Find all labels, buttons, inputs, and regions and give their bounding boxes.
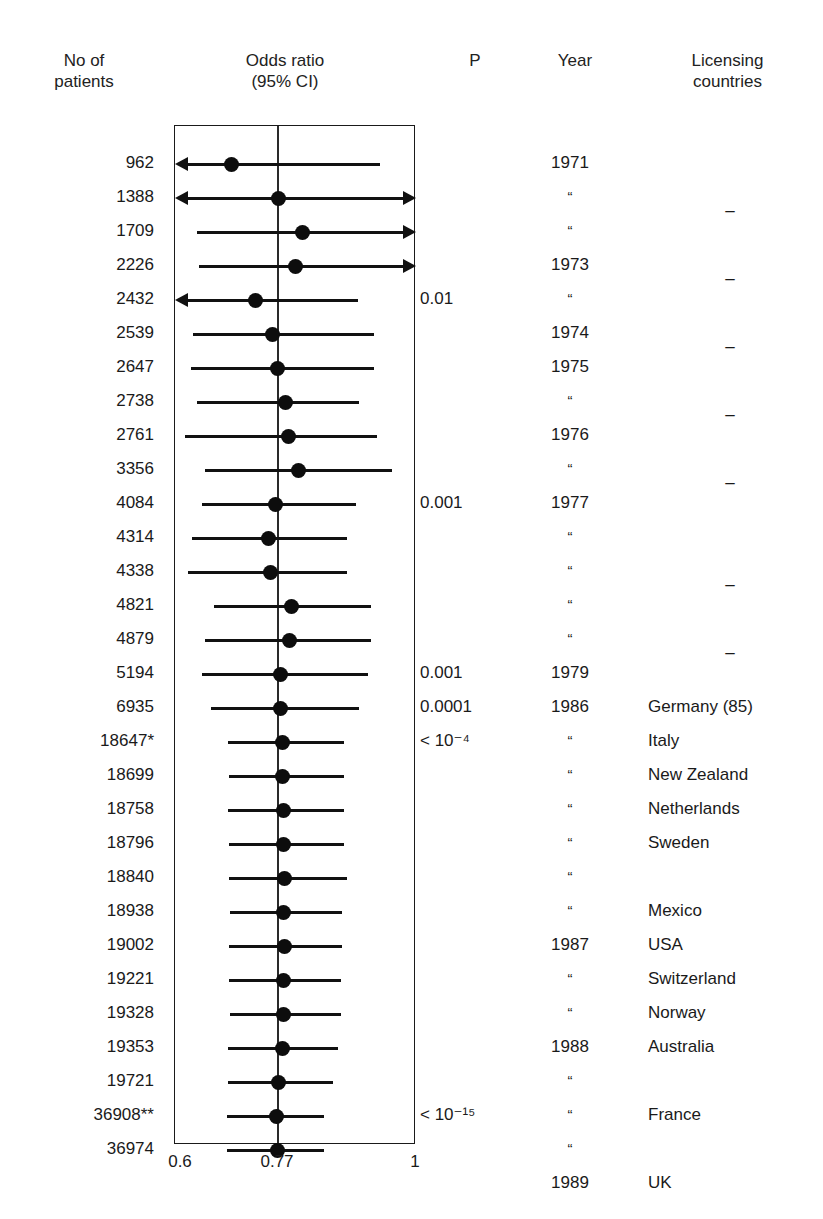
cell-patients: 19221	[14, 962, 154, 996]
cell-patients: 18796	[14, 826, 154, 860]
cell-year: “	[520, 1098, 620, 1132]
cell-patients: 4821	[14, 588, 154, 622]
cell-year: “	[520, 996, 620, 1030]
cell-patients: 19721	[14, 1064, 154, 1098]
cell-patients: 2647	[14, 350, 154, 384]
forest-plot-figure: No of patients Odds ratio (95% CI) P Yea…	[0, 0, 823, 1219]
cell-year: 1987	[520, 928, 620, 962]
cell-year: 1974	[520, 316, 620, 350]
cell-patients: 2226	[14, 248, 154, 282]
cell-year: 1971	[520, 146, 620, 180]
cell-year: “	[520, 792, 620, 826]
column-header-odds-ratio-line1: Odds ratio	[180, 50, 390, 71]
cell-year: 1988	[520, 1030, 620, 1064]
cell-year: “	[520, 622, 620, 656]
table-row: 22261973–	[0, 248, 823, 282]
column-header-odds-ratio-line2: (95% CI)	[180, 71, 390, 92]
cell-patients: 18938	[14, 894, 154, 928]
cell-patients: 18840	[14, 860, 154, 894]
cell-year: 1989	[520, 1166, 620, 1200]
axis-tick-label-max: 1	[392, 1150, 438, 1174]
table-row: 18647*< 10⁻⁴“Italy	[0, 724, 823, 758]
cell-year: “	[520, 894, 620, 928]
cell-licensing-country: Italy	[648, 724, 820, 758]
cell-licensing-country: UK	[648, 1166, 820, 1200]
cell-year: “	[520, 724, 620, 758]
table-row: 36908**< 10⁻¹⁵“France	[0, 1098, 823, 1132]
cell-year: “	[520, 554, 620, 588]
cell-patients: 18699	[14, 758, 154, 792]
column-header-patients-line2: patients	[14, 71, 154, 92]
table-row: 4821“	[0, 588, 823, 622]
column-header-patients: No of patients	[14, 50, 154, 92]
cell-year: “	[520, 520, 620, 554]
cell-licensing-country: Switzerland	[648, 962, 820, 996]
cell-patients: 19002	[14, 928, 154, 962]
cell-licensing-country: USA	[648, 928, 820, 962]
table-row: 4314“	[0, 520, 823, 554]
column-header-odds-ratio: Odds ratio (95% CI)	[180, 50, 390, 92]
axis-tick-label-min: 0.6	[150, 1150, 210, 1174]
column-header-licensing-countries: Licensing countries	[640, 50, 815, 92]
table-row: 9621971	[0, 146, 823, 180]
cell-patients: 2738	[14, 384, 154, 418]
cell-patients: 4084	[14, 486, 154, 520]
cell-patients: 36974	[14, 1132, 154, 1166]
cell-patients: 4879	[14, 622, 154, 656]
cell-patients: 4338	[14, 554, 154, 588]
column-header-licensing-line1: Licensing	[640, 50, 815, 71]
cell-licensing-country: France	[648, 1098, 820, 1132]
cell-patients: 6935	[14, 690, 154, 724]
table-row: 18938“Mexico	[0, 894, 823, 928]
table-row: 2738“–	[0, 384, 823, 418]
axis-tick-label-mid: 0.77	[246, 1150, 308, 1174]
cell-patients: 1388	[14, 180, 154, 214]
cell-patients: 2539	[14, 316, 154, 350]
cell-licensing-country: Australia	[648, 1030, 820, 1064]
cell-year: 1973	[520, 248, 620, 282]
cell-patients: 2432	[14, 282, 154, 316]
cell-year: “	[520, 962, 620, 996]
table-row: 18796“Sweden	[0, 826, 823, 860]
cell-licensing-country: Mexico	[648, 894, 820, 928]
cell-patients: 18758	[14, 792, 154, 826]
cell-licensing-country: Sweden	[648, 826, 820, 860]
cell-licensing-country: Norway	[648, 996, 820, 1030]
cell-year: “	[520, 826, 620, 860]
cell-patients: 962	[14, 146, 154, 180]
cell-patients: 36908**	[14, 1098, 154, 1132]
cell-year: 1976	[520, 418, 620, 452]
table-row: 27611976	[0, 418, 823, 452]
cell-year: “	[520, 180, 620, 214]
table-row: 1388“–	[0, 180, 823, 214]
cell-year: 1986	[520, 690, 620, 724]
column-header-year: Year	[520, 50, 630, 71]
column-header-licensing-line2: countries	[640, 71, 815, 92]
cell-patients: 18647*	[14, 724, 154, 758]
cell-patients: 5194	[14, 656, 154, 690]
column-header-p-value: P	[420, 50, 530, 71]
cell-year: “	[520, 1064, 620, 1098]
cell-patients: 2761	[14, 418, 154, 452]
cell-year: 1975	[520, 350, 620, 384]
cell-year: “	[520, 588, 620, 622]
cell-year: 1979	[520, 656, 620, 690]
table-row: 25391974–	[0, 316, 823, 350]
table-row: 4338“–	[0, 554, 823, 588]
table-row: 193531988Australia	[0, 1030, 823, 1064]
table-row: 1709“	[0, 214, 823, 248]
cell-year: “	[520, 452, 620, 486]
table-row: 18699“New Zealand	[0, 758, 823, 792]
table-row: 18840“	[0, 860, 823, 894]
table-row: 26471975	[0, 350, 823, 384]
cell-year: “	[520, 758, 620, 792]
table-row: 19221“Switzerland	[0, 962, 823, 996]
cell-year: “	[520, 214, 620, 248]
cell-patients: 19328	[14, 996, 154, 1030]
cell-patients: 3356	[14, 452, 154, 486]
table-row: 19721“	[0, 1064, 823, 1098]
table-row: 4879“–	[0, 622, 823, 656]
table-row: 24320.01“	[0, 282, 823, 316]
cell-year: “	[520, 1132, 620, 1166]
cell-patients: 19353	[14, 1030, 154, 1064]
